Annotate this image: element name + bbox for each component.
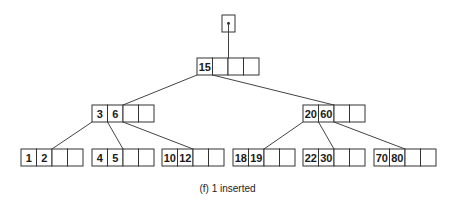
btree-node-l2230: 2230 bbox=[303, 149, 365, 166]
edge-n36-l1012 bbox=[123, 122, 193, 149]
edge-n36-l45 bbox=[108, 122, 124, 149]
node-slot bbox=[244, 58, 260, 75]
node-slot bbox=[350, 105, 366, 122]
node-key: 19 bbox=[250, 152, 262, 164]
node-slot bbox=[334, 105, 350, 122]
edge-n2060-l2230 bbox=[319, 122, 335, 149]
node-slot bbox=[421, 149, 437, 166]
node-key: 10 bbox=[164, 152, 176, 164]
node-slot bbox=[213, 58, 229, 75]
node-slot bbox=[405, 149, 421, 166]
node-key: 60 bbox=[320, 108, 332, 120]
node-slot bbox=[123, 105, 139, 122]
edge-n36-l12 bbox=[52, 122, 92, 149]
node-slot bbox=[52, 149, 68, 166]
node-key: 20 bbox=[305, 108, 317, 120]
node-key: 3 bbox=[97, 108, 103, 120]
btree-node-l1819: 1819 bbox=[233, 149, 295, 166]
edge-root-n2060 bbox=[213, 75, 335, 105]
btree-node-l7080: 7080 bbox=[374, 149, 436, 166]
node-key: 6 bbox=[112, 108, 118, 120]
node-slot bbox=[139, 149, 155, 166]
btree-node-l1012: 1012 bbox=[162, 149, 224, 166]
node-slot bbox=[228, 58, 244, 75]
node-slot bbox=[209, 149, 225, 166]
node-key: 30 bbox=[320, 152, 332, 164]
btree-diagram: 1536206012451012181922307080 bbox=[0, 0, 455, 210]
edge-n2060-l7080 bbox=[334, 122, 405, 149]
node-key: 2 bbox=[41, 152, 47, 164]
btree-node-root: 15 bbox=[197, 58, 259, 75]
btree-node-l12: 12 bbox=[21, 149, 83, 166]
figure-caption: (f) 1 inserted bbox=[0, 183, 455, 194]
node-key: 70 bbox=[376, 152, 388, 164]
node-slot bbox=[139, 105, 155, 122]
node-key: 80 bbox=[391, 152, 403, 164]
edge-root-n36 bbox=[123, 75, 197, 105]
node-key: 22 bbox=[305, 152, 317, 164]
node-slot bbox=[264, 149, 280, 166]
node-slot bbox=[280, 149, 296, 166]
edge-n2060-l1819 bbox=[264, 122, 303, 149]
node-key: 5 bbox=[112, 152, 118, 164]
btree-node-n2060: 2060 bbox=[303, 105, 365, 122]
node-key: 1 bbox=[26, 152, 32, 164]
nodes-layer: 1536206012451012181922307080 bbox=[21, 58, 436, 166]
node-key: 18 bbox=[235, 152, 247, 164]
root-pointer bbox=[222, 15, 235, 58]
node-slot bbox=[350, 149, 366, 166]
node-key: 12 bbox=[179, 152, 191, 164]
node-slot bbox=[68, 149, 84, 166]
node-slot bbox=[334, 149, 350, 166]
btree-node-n36: 36 bbox=[92, 105, 154, 122]
btree-node-l45: 45 bbox=[92, 149, 154, 166]
node-key: 15 bbox=[199, 61, 211, 73]
node-slot bbox=[193, 149, 209, 166]
node-slot bbox=[123, 149, 139, 166]
node-key: 4 bbox=[97, 152, 104, 164]
